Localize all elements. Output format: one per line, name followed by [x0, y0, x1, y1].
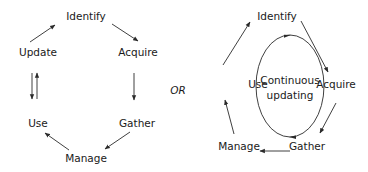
arrow-gather-to-manage [105, 132, 130, 149]
center-label-line2: updating [267, 89, 314, 101]
node-gather: Gather [119, 117, 156, 129]
arrow-manage-to-use [45, 133, 69, 150]
node-identify: Identify [66, 10, 106, 22]
or-separator: OR [170, 84, 186, 96]
node-update: Update [19, 46, 57, 58]
linear-lifecycle-diagram: Identify Update Acquire Use Gather Manag… [19, 10, 158, 164]
cycle-arrowhead-top [284, 35, 291, 38]
node-acquire: Acquire [118, 46, 158, 58]
node-gather: Gather [289, 140, 326, 152]
node-identify: Identify [257, 10, 297, 22]
data-lifecycle-diagram: Identify Update Acquire Use Gather Manag… [0, 0, 368, 172]
continuous-lifecycle-diagram: Identify Use Acquire Manage Gather Conti… [218, 10, 356, 152]
node-manage: Manage [65, 152, 107, 164]
arrow-use-to-identify [223, 22, 250, 65]
center-label-line1: Continuous [260, 74, 319, 86]
arrow-acquire-to-gather [320, 103, 336, 133]
node-manage: Manage [218, 140, 260, 152]
node-acquire: Acquire [316, 78, 356, 90]
arrow-manage-to-use [225, 100, 234, 134]
arrow-identify-to-acquire [301, 21, 328, 72]
node-use: Use [28, 117, 48, 129]
arrow-identify-to-acquire [112, 24, 138, 41]
arrow-update-to-identify [30, 25, 55, 42]
